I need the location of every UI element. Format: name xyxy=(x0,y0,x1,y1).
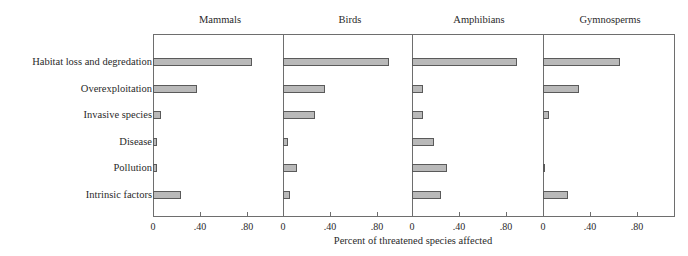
frame-top-border xyxy=(153,34,674,35)
bar xyxy=(543,111,549,119)
x-tick xyxy=(330,212,331,216)
x-tick-label: 0 xyxy=(138,221,168,232)
panel-title: Mammals xyxy=(155,14,285,25)
x-tick-label: 0 xyxy=(397,221,427,232)
bar xyxy=(543,85,579,93)
bar xyxy=(153,164,157,172)
x-tick-label: .80 xyxy=(232,221,262,232)
x-tick-label: .40 xyxy=(575,221,605,232)
category-label: Intrinsic factors xyxy=(86,189,152,201)
x-tick-label: .80 xyxy=(491,221,521,232)
bar xyxy=(412,138,434,146)
panel-title: Gymnosperms xyxy=(545,14,675,25)
bar xyxy=(283,138,288,146)
bar xyxy=(283,85,325,93)
x-tick xyxy=(377,212,378,216)
x-tick-label: 0 xyxy=(268,221,298,232)
bar xyxy=(412,85,423,93)
category-label: Disease xyxy=(119,136,152,148)
x-tick-label: .80 xyxy=(362,221,392,232)
bar xyxy=(153,138,157,146)
bar xyxy=(283,191,290,199)
x-tick-label: .40 xyxy=(315,221,345,232)
bar xyxy=(283,164,297,172)
x-tick-label: 0 xyxy=(528,221,558,232)
x-axis-line xyxy=(153,216,675,217)
x-tick xyxy=(590,212,591,216)
x-tick xyxy=(637,212,638,216)
x-tick xyxy=(459,212,460,216)
bar xyxy=(283,111,315,119)
category-label: Pollution xyxy=(113,162,152,174)
bar xyxy=(543,58,620,66)
bar xyxy=(543,191,568,199)
panel-title: Amphibians xyxy=(414,14,544,25)
threatened-species-chart: Habitat loss and degredationOverexploita… xyxy=(0,0,688,256)
x-tick xyxy=(247,212,248,216)
category-label: Invasive species xyxy=(83,109,152,121)
category-label: Overexploitation xyxy=(81,83,152,95)
bar xyxy=(412,111,423,119)
bar xyxy=(153,85,197,93)
x-tick xyxy=(200,212,201,216)
bar xyxy=(412,191,441,199)
bar xyxy=(153,58,252,66)
category-label: Habitat loss and degredation xyxy=(32,56,152,68)
bar xyxy=(283,58,389,66)
x-tick-label: .40 xyxy=(444,221,474,232)
bar xyxy=(153,191,181,199)
frame-right-border xyxy=(674,34,675,217)
x-tick-label: .40 xyxy=(185,221,215,232)
bar xyxy=(412,58,517,66)
bar xyxy=(412,164,447,172)
x-axis-label: Percent of threatened species affected xyxy=(283,235,543,246)
x-tick-label: .80 xyxy=(622,221,652,232)
bar xyxy=(153,111,161,119)
x-tick xyxy=(506,212,507,216)
panel-title: Birds xyxy=(285,14,415,25)
bar xyxy=(543,164,545,172)
